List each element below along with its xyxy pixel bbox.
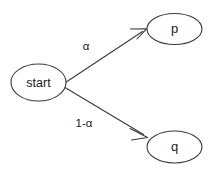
node-start[interactable]: start [11,64,66,101]
node-q[interactable]: q [147,131,202,163]
graph-svg: start p q α 1-α [0,0,212,173]
node-p[interactable]: p [147,14,202,45]
edge-line-start-to-p [63,32,143,85]
edge-label-one-minus-alpha: 1-α [76,117,93,129]
diagram-canvas: start p q α 1-α [0,0,212,173]
arrowhead-start-to-q [130,129,148,141]
node-p-label: p [171,21,178,36]
edge-start-to-q [63,86,148,140]
node-start-label: start [26,76,51,90]
node-q-label: q [171,139,178,154]
edge-label-alpha: α [83,40,90,52]
edge-start-to-p [63,29,147,85]
